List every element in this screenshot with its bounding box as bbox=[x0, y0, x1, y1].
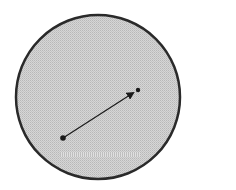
striped-band bbox=[60, 152, 140, 157]
diagram-canvas bbox=[0, 0, 236, 190]
vector-end-point bbox=[136, 88, 140, 92]
vector-start-point bbox=[60, 135, 66, 141]
